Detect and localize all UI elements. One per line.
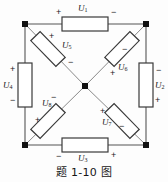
sign-u7-minus: − (119, 122, 124, 131)
label-u5: U5 (62, 41, 72, 50)
sign-u3-plus: + (111, 151, 116, 160)
sign-u5-plus: + (49, 32, 54, 41)
sign-u1-plus: + (56, 8, 61, 17)
figure-container: U1 + − U2 − + U3 − + U4 + − U5 + − U6 − … (0, 0, 168, 182)
sign-u6-plus: + (110, 69, 115, 78)
resistor-u2 (139, 63, 153, 107)
resistor-u5 (31, 32, 65, 67)
resistor-u1 (62, 17, 108, 31)
sign-u4-plus: + (10, 65, 15, 74)
sign-u1-minus: − (111, 8, 116, 17)
figure-caption: 题 1-10 图 (0, 163, 168, 179)
label-u2: U2 (155, 81, 165, 90)
label-u6: U6 (118, 63, 128, 72)
node-bottom-left (22, 142, 28, 148)
resistor-u3 (62, 138, 108, 152)
label-u1: U1 (78, 4, 88, 13)
node-bottom-right (143, 142, 149, 148)
sign-u7-plus: + (100, 107, 105, 116)
sign-u2-plus: + (155, 96, 160, 105)
sign-u8-minus: − (51, 93, 56, 102)
node-center (82, 83, 88, 89)
sign-u8-plus: + (35, 116, 40, 125)
sign-u3-minus: − (56, 152, 61, 161)
node-top-left (22, 21, 28, 27)
sign-u6-minus: − (122, 45, 127, 54)
resistor-u4 (18, 63, 32, 107)
sign-u4-minus: − (10, 96, 15, 105)
label-u3: U3 (78, 154, 88, 163)
sign-u5-minus: − (68, 58, 73, 67)
label-u7: U7 (102, 118, 112, 127)
label-u4: U4 (3, 81, 13, 90)
node-top-right (143, 21, 149, 27)
sign-u2-minus: − (156, 66, 161, 75)
